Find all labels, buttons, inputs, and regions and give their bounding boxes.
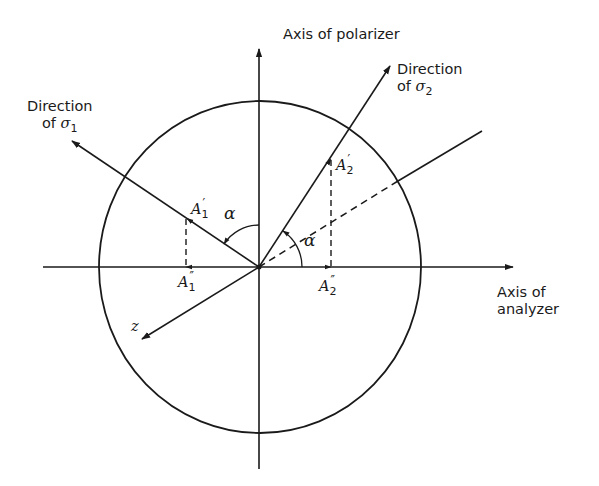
A1-prime-label: A1′ (191, 201, 205, 219)
A2-prime-letter: A (336, 157, 346, 173)
A2-dprime-mark: ″ (330, 274, 334, 288)
sigma2-subscript: 2 (426, 85, 433, 98)
A1-prime-letter: A (191, 201, 201, 217)
A2-dprime-letter: A (319, 278, 329, 294)
polarizer-axis-label: Axis of polarizer (283, 26, 400, 43)
A2-dprime-label: A2″ (319, 278, 335, 296)
A1-dprime-label: A1″ (178, 274, 194, 292)
sigma2-direction-line (259, 66, 390, 267)
z-axis-line (142, 267, 259, 339)
polarization-diagram (0, 0, 599, 486)
A1-dprime-letter: A (178, 274, 188, 290)
alpha-arc-right (283, 231, 302, 267)
z-axis-label: z (131, 318, 139, 335)
analyzer-label-line2: analyzer (497, 301, 559, 318)
sigma1-subscript: 1 (71, 122, 78, 135)
sigma2-direction-label: Direction of σ2 (397, 61, 463, 96)
sigma1-prefix: of (42, 115, 61, 131)
sigma1-direction-label: Direction of σ1 (27, 98, 93, 133)
A2-prime-label: A2′ (336, 157, 350, 175)
sigma1-label-line2: of σ1 (27, 115, 93, 133)
solid-reference-line (398, 131, 482, 181)
alpha-left-label: α (224, 205, 235, 222)
origin-point (257, 265, 262, 270)
sigma1-label-line1: Direction (27, 98, 93, 115)
alpha-arc-left (224, 225, 259, 244)
alpha-right-label: α (304, 232, 315, 249)
analyzer-label-line1: Axis of (497, 284, 559, 301)
dashed-reference-line (259, 181, 398, 267)
sigma1-symbol: σ (61, 115, 71, 131)
A1-dprime-mark: ″ (189, 270, 193, 284)
sigma2-symbol: σ (416, 78, 426, 94)
sigma2-label-line2: of σ2 (397, 78, 463, 96)
A1-prime-mark: ′ (202, 197, 205, 211)
analyzer-axis-label: Axis of analyzer (497, 284, 559, 318)
sigma2-label-line1: Direction (397, 61, 463, 78)
sigma2-prefix: of (397, 78, 416, 94)
A2-prime-mark: ′ (347, 153, 350, 167)
